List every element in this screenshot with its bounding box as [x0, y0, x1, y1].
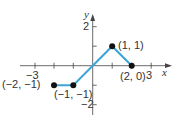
tick-label-2: 2 [83, 21, 89, 32]
point-label-2-0: (2, 0) [120, 71, 146, 82]
point-1-1 [109, 43, 115, 49]
point-label-neg2-neg1: (−2, −1) [2, 79, 41, 90]
y-axis-label: y [84, 9, 89, 20]
tick-label-neg2: −2 [81, 99, 94, 110]
point-label-1-1: (1, 1) [118, 40, 144, 51]
x-axis-label: x [162, 67, 167, 78]
point-label-neg1-neg1: (−1, −1) [54, 89, 93, 100]
y-axis-arrow-icon [90, 14, 95, 21]
tick-label-3: 3 [146, 70, 152, 81]
point-2-0 [129, 63, 135, 69]
